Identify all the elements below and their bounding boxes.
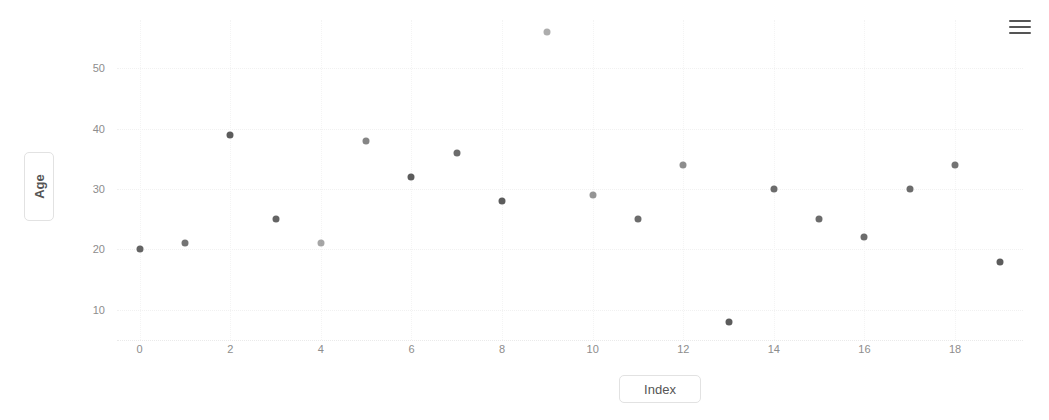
data-point[interactable] (363, 137, 370, 144)
x-axis-tick-label: 12 (668, 343, 698, 355)
data-point[interactable] (453, 149, 460, 156)
gridline-vertical (502, 20, 503, 340)
x-axis-tick-label: 8 (487, 343, 517, 355)
data-point[interactable] (680, 161, 687, 168)
y-axis-tick-label: 10 (75, 304, 105, 316)
y-axis-tick-label: 50 (75, 62, 105, 74)
data-point[interactable] (272, 216, 279, 223)
x-axis-tick-label: 4 (306, 343, 336, 355)
x-axis-tick-label: 14 (759, 343, 789, 355)
gridline-vertical (864, 20, 865, 340)
data-point[interactable] (317, 240, 324, 247)
x-axis-tick-label: 18 (940, 343, 970, 355)
data-point[interactable] (997, 258, 1004, 265)
y-axis-tick-label: 20 (75, 243, 105, 255)
data-point[interactable] (816, 216, 823, 223)
x-axis-tick-label: 6 (396, 343, 426, 355)
data-point[interactable] (725, 318, 732, 325)
data-point[interactable] (906, 186, 913, 193)
gridline-horizontal (117, 68, 1023, 69)
gridline-vertical (140, 20, 141, 340)
gridline-vertical (593, 20, 594, 340)
x-axis-tick-label: 0 (125, 343, 155, 355)
data-point[interactable] (634, 216, 641, 223)
data-point[interactable] (499, 198, 506, 205)
gridline-vertical (955, 20, 956, 340)
scatter-chart-container: Age Index 1020304050024681012141618 (0, 0, 1049, 420)
x-axis-tick-label: 10 (578, 343, 608, 355)
x-axis-tick-label: 2 (215, 343, 245, 355)
y-axis-title: Age (24, 152, 54, 221)
data-point[interactable] (861, 234, 868, 241)
y-axis-title-label: Age (32, 174, 47, 199)
gridline-horizontal (117, 129, 1023, 130)
data-point[interactable] (544, 29, 551, 36)
data-point[interactable] (136, 246, 143, 253)
gridline-vertical (683, 20, 684, 340)
x-axis-title-label: Index (644, 382, 676, 397)
y-axis-tick-label: 30 (75, 183, 105, 195)
data-point[interactable] (952, 161, 959, 168)
x-axis-title: Index (619, 375, 701, 403)
gridline-horizontal (117, 189, 1023, 190)
x-axis-line (117, 340, 1023, 341)
gridline-vertical (321, 20, 322, 340)
gridline-horizontal (117, 249, 1023, 250)
y-axis-tick-label: 40 (75, 123, 105, 135)
data-point[interactable] (589, 192, 596, 199)
gridline-horizontal (117, 310, 1023, 311)
data-point[interactable] (227, 131, 234, 138)
data-point[interactable] (181, 240, 188, 247)
plot-area (117, 20, 1023, 340)
data-point[interactable] (408, 173, 415, 180)
gridline-vertical (230, 20, 231, 340)
data-point[interactable] (770, 186, 777, 193)
gridline-vertical (774, 20, 775, 340)
x-axis-tick-label: 16 (849, 343, 879, 355)
